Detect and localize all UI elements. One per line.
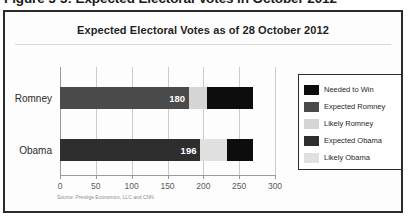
x-axis-tick bbox=[60, 175, 61, 179]
legend-label: Expected Obama bbox=[324, 136, 382, 145]
legend-swatch bbox=[304, 136, 319, 146]
legend-swatch bbox=[304, 85, 319, 95]
bar-row: Obama196 bbox=[60, 139, 275, 161]
legend-item: Expected Obama bbox=[304, 132, 397, 149]
legend-label: Likely Obama bbox=[324, 153, 370, 162]
source-note: Source: Prestige Economics, LLC and CNN bbox=[57, 194, 154, 200]
legend-item: Likely Obama bbox=[304, 149, 397, 166]
x-axis-tick-label: 250 bbox=[232, 181, 246, 191]
bar-segment bbox=[200, 139, 227, 161]
legend-swatch bbox=[304, 119, 319, 129]
bar-segment: 180 bbox=[60, 87, 189, 109]
bar-segment bbox=[189, 87, 207, 109]
chart-title: Expected Electoral Votes as of 28 Octobe… bbox=[5, 24, 401, 36]
x-axis-tick-label: 0 bbox=[58, 181, 63, 191]
plot-area: 050100150200250300 Romney180Obama196 bbox=[60, 67, 275, 175]
bar-value-label: 196 bbox=[181, 145, 197, 156]
x-axis-tick bbox=[168, 175, 169, 179]
bar-value-label: 180 bbox=[169, 93, 185, 104]
x-axis-tick-label: 300 bbox=[268, 181, 282, 191]
legend-swatch bbox=[304, 102, 319, 112]
x-axis-tick bbox=[239, 175, 240, 179]
legend-label: Expected Romney bbox=[324, 102, 385, 111]
gridline bbox=[275, 67, 276, 175]
legend-item: Likely Romney bbox=[304, 115, 397, 132]
bar-segment: 196 bbox=[60, 139, 200, 161]
x-axis-tick bbox=[132, 175, 133, 179]
x-axis-tick-label: 50 bbox=[91, 181, 100, 191]
legend-label: Needed to Win bbox=[324, 85, 374, 94]
legend-label: Likely Romney bbox=[324, 119, 373, 128]
title-divider bbox=[15, 44, 391, 45]
x-axis-tick bbox=[275, 175, 276, 179]
legend-swatch bbox=[304, 153, 319, 163]
legend-item: Needed to Win bbox=[304, 81, 397, 98]
category-label: Obama bbox=[19, 145, 52, 156]
category-label: Romney bbox=[15, 93, 52, 104]
bar-segment bbox=[227, 139, 254, 161]
x-axis-tick bbox=[96, 175, 97, 179]
figure-caption: Figure 5-3: Expected Electoral Votes in … bbox=[4, 0, 404, 6]
bar-row: Romney180 bbox=[60, 87, 275, 109]
x-axis-tick-label: 150 bbox=[160, 181, 174, 191]
chart-legend: Needed to WinExpected RomneyLikely Romne… bbox=[298, 74, 402, 170]
x-axis-tick bbox=[203, 175, 204, 179]
figure-frame: Expected Electoral Votes as of 28 Octobe… bbox=[3, 10, 403, 213]
x-axis-tick-label: 200 bbox=[196, 181, 210, 191]
x-axis-tick-label: 100 bbox=[125, 181, 139, 191]
legend-item: Expected Romney bbox=[304, 98, 397, 115]
bar-segment bbox=[207, 87, 254, 109]
